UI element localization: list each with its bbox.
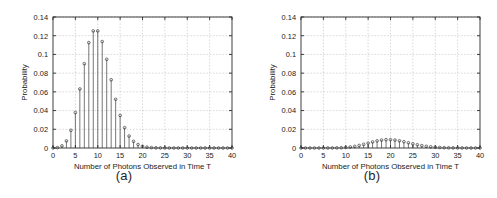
y-tick-label: 0.08 (282, 69, 296, 78)
y-axis-title: Probability (20, 64, 29, 101)
y-tick-label: 0.12 (282, 32, 296, 41)
x-tick-label: 10 (342, 151, 350, 160)
x-tick-label: 5 (73, 151, 77, 160)
x-tick-label: 15 (116, 151, 124, 160)
panel-a: 00.020.040.060.080.10.120.14051015202530… (0, 0, 248, 198)
y-tick-label: 0.02 (34, 125, 48, 134)
y-tick-label: 0.1 (286, 50, 296, 59)
x-tick-label: 40 (476, 151, 484, 160)
y-tick-label: 0.14 (282, 13, 296, 22)
y-tick-label: 0.12 (34, 32, 48, 41)
x-tick-label: 40 (228, 151, 236, 160)
x-tick-label: 5 (321, 151, 325, 160)
x-tick-label: 30 (431, 151, 439, 160)
y-tick-label: 0.04 (34, 106, 48, 115)
x-tick-label: 25 (409, 151, 417, 160)
x-tick-label: 25 (161, 151, 169, 160)
y-tick-label: 0.06 (282, 88, 296, 97)
y-tick-label: 0.06 (34, 88, 48, 97)
x-tick-label: 10 (94, 151, 102, 160)
panel-b-caption: (b) (248, 168, 496, 183)
y-tick-label: 0 (44, 144, 48, 153)
y-tick-label: 0.08 (34, 69, 48, 78)
x-tick-label: 15 (364, 151, 372, 160)
chart-b-content: 00.020.040.060.080.10.120.14051015202530… (268, 13, 484, 171)
x-tick-label: 0 (299, 151, 303, 160)
figure-container: 00.020.040.060.080.10.120.14051015202530… (0, 0, 497, 198)
x-tick-label: 20 (138, 151, 146, 160)
panel-b: 00.020.040.060.080.10.120.14051015202530… (248, 0, 496, 198)
y-tick-label: 0.14 (34, 13, 48, 22)
y-tick-label: 0.02 (282, 125, 296, 134)
x-tick-label: 35 (206, 151, 214, 160)
x-tick-label: 20 (386, 151, 394, 160)
panel-a-caption: (a) (0, 168, 248, 183)
y-tick-label: 0 (292, 144, 296, 153)
y-tick-label: 0.1 (38, 50, 48, 59)
y-axis-title: Probability (268, 64, 277, 101)
chart-a-content: 00.020.040.060.080.10.120.14051015202530… (20, 13, 236, 171)
x-tick-label: 0 (51, 151, 55, 160)
x-tick-label: 35 (454, 151, 462, 160)
x-tick-label: 30 (183, 151, 191, 160)
y-tick-label: 0.04 (282, 106, 296, 115)
